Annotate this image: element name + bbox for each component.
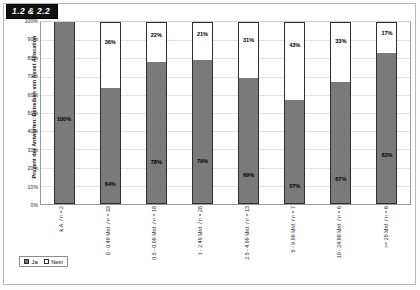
x-axis-tick: 2.5 - 4.99 Mrd. / n = 13 [244,206,254,268]
x-tick-slot: 0.5 - 0.99 Mrd. / n = 18 [133,206,179,268]
stacked-bar[interactable]: 22%78% [146,22,167,204]
bar-group: 100%36%64%22%78%21%79%31%69%43%57%33%67%… [41,22,410,204]
x-axis-tick: 10 - 24.99 Mrd. / n = 6 [336,206,346,268]
bar-value-label: 31% [243,37,254,43]
y-axis-tick: 60% [16,92,38,98]
y-axis-tick-labels: 0%10%20%30%40%50%60%70%80%90%100% [16,21,38,205]
bar-segment-nein[interactable]: 31% [238,22,259,78]
bar-value-label: 67% [335,176,346,182]
x-tick-slot: 1 - 2.49 Mrd. / n = 28 [179,206,225,268]
x-tick-slot: 10 - 24.99 Mrd. / n = 6 [318,206,364,268]
y-axis-tick: 70% [16,73,38,79]
bar-segment-ja[interactable]: 67% [330,82,351,204]
x-axis-tick: 0 - 0.49 Mrd. / n = 33 [105,206,115,268]
legend-label: Ja [32,259,38,265]
legend-item-ja[interactable]: Ja [24,259,38,265]
y-axis-tick: 50% [16,110,38,116]
x-tick-slot: 2.5 - 4.99 Mrd. / n = 13 [226,206,272,268]
stacked-bar[interactable]: 21%79% [192,22,213,204]
bar-segment-nein[interactable]: 21% [192,22,213,60]
y-axis-tick: 40% [16,128,38,134]
bar-segment-ja[interactable]: 64% [100,88,121,204]
bar-segment-nein[interactable]: 17% [376,22,397,53]
stacked-bar[interactable]: 43%57% [284,22,305,204]
bar-segment-ja[interactable]: 57% [284,100,305,204]
bar-slot: 21%79% [179,22,225,204]
bar-value-label: 43% [289,42,300,48]
bar-value-label: 21% [197,31,208,37]
bar-segment-ja[interactable]: 78% [146,62,167,204]
bar-value-label: 79% [197,158,208,164]
y-axis-tick: 20% [16,165,38,171]
y-axis-tick: 10% [16,184,38,190]
y-axis-tick: 90% [16,36,38,42]
legend-swatch-icon [44,259,49,264]
x-axis-tick-labels: k.A. / n = 20 - 0.49 Mrd. / n = 330.5 - … [40,206,411,268]
x-tick-slot: 5 - 9.99 Mrd. / n = 7 [272,206,318,268]
bar-value-label: 100% [57,116,71,122]
legend-item-nein[interactable]: Nein [44,259,63,265]
plot-area: 100%36%64%22%78%21%79%31%69%43%57%33%67%… [40,21,411,205]
legend-label: Nein [51,259,63,265]
bar-value-label: 78% [151,159,162,165]
bar-slot: 17%83% [364,22,410,204]
bar-segment-ja[interactable]: 79% [192,60,213,204]
legend-swatch-icon [24,259,29,264]
bar-value-label: 69% [243,172,254,178]
bar-slot: 31%69% [226,22,272,204]
stacked-bar[interactable]: 36%64% [100,22,121,204]
chart-title-badge: 1.2 & 2.2 [6,4,58,19]
chart-legend: JaNein [19,256,68,267]
stacked-bar[interactable]: 31%69% [238,22,259,204]
bar-segment-nein[interactable]: 22% [146,22,167,62]
bar-value-label: 64% [105,181,116,187]
bar-value-label: 57% [289,183,300,189]
bar-segment-nein[interactable]: 43% [284,22,305,100]
stacked-bar[interactable]: 17%83% [376,22,397,204]
bar-slot: 36%64% [87,22,133,204]
y-axis-tick: 80% [16,55,38,61]
bar-segment-nein[interactable]: 36% [100,22,121,88]
x-axis-tick: 5 - 9.99 Mrd. / n = 7 [290,206,300,268]
bar-segment-nein[interactable]: 33% [330,22,351,82]
stacked-bar[interactable]: 33%67% [330,22,351,204]
bar-slot: 43%57% [272,22,318,204]
bar-segment-ja[interactable]: 83% [376,53,397,204]
x-tick-slot: >= 25 Mrd. / n = 6 [365,206,411,268]
x-axis-tick: 1 - 2.49 Mrd. / n = 28 [197,206,207,268]
chart-figure: 1.2 & 2.2 Prozent der Antworten: Betreib… [0,0,420,290]
bar-value-label: 33% [335,38,346,44]
bar-value-label: 17% [381,30,392,36]
bar-slot: 100% [41,22,87,204]
x-axis-tick: 0.5 - 0.99 Mrd. / n = 18 [151,206,161,268]
bar-value-label: 22% [151,32,162,38]
bar-slot: 33%67% [318,22,364,204]
x-tick-slot: 0 - 0.49 Mrd. / n = 33 [86,206,132,268]
stacked-bar[interactable]: 100% [54,22,75,204]
bar-segment-ja[interactable]: 69% [238,78,259,204]
y-axis-tick: 0% [16,202,38,208]
bar-value-label: 36% [105,39,116,45]
bar-value-label: 83% [381,152,392,158]
bar-slot: 22%78% [133,22,179,204]
y-axis-tick: 30% [16,147,38,153]
x-axis-tick: >= 25 Mrd. / n = 6 [383,206,393,268]
bar-segment-ja[interactable]: 100% [54,22,75,204]
